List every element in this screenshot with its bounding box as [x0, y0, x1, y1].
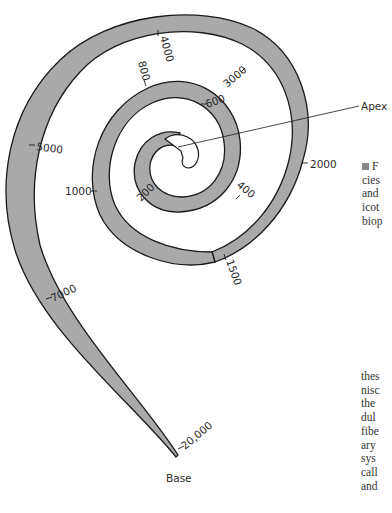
body-text-fragment: thes nisc the dul fibe ary sys call and — [361, 370, 380, 493]
apex-label: Apex — [361, 100, 387, 112]
body-line-2: nisc — [361, 384, 380, 398]
caption-line-1: F — [372, 160, 378, 172]
body-line-6: ary — [361, 439, 380, 453]
basilar-membrane-inner-turn — [92, 81, 240, 264]
base-label: Base — [166, 472, 192, 484]
freq-label-1000: 1000 — [65, 185, 92, 197]
freq-label-4000: 4000 — [158, 34, 177, 63]
body-line-8: call — [361, 466, 380, 480]
caption-line-5: biop — [362, 215, 382, 229]
body-line-7: sys — [361, 452, 380, 466]
freq-label-800: 800 — [136, 59, 153, 81]
caption-line-3: and — [362, 187, 382, 201]
body-line-4: dul — [361, 411, 380, 425]
freq-label-5000: 5000 — [36, 140, 64, 156]
apex-pointer-line — [178, 106, 359, 147]
body-line-9: and — [361, 480, 380, 494]
body-line-1: thes — [361, 370, 380, 384]
caption-line-2: cies — [362, 174, 382, 188]
body-line-5: fibe — [361, 425, 380, 439]
basilar-membrane-outer-turn — [6, 15, 308, 457]
caption-line-4: icot — [362, 201, 382, 215]
caption-marker-square — [362, 163, 369, 170]
body-line-3: the — [361, 397, 380, 411]
cochlea-spiral-diagram: Apex Base 4000 800 3000 600 5000 2000 10… — [0, 0, 392, 513]
figure-caption-fragment: F cies and icot biop — [362, 160, 382, 229]
freq-label-20000: 20,000 — [179, 419, 215, 452]
freq-label-2000: 2000 — [310, 158, 337, 170]
freq-label-1500: 1500 — [224, 258, 244, 287]
helicotrema-apex-hook — [165, 135, 199, 168]
freq-label-3000: 3000 — [221, 63, 249, 89]
